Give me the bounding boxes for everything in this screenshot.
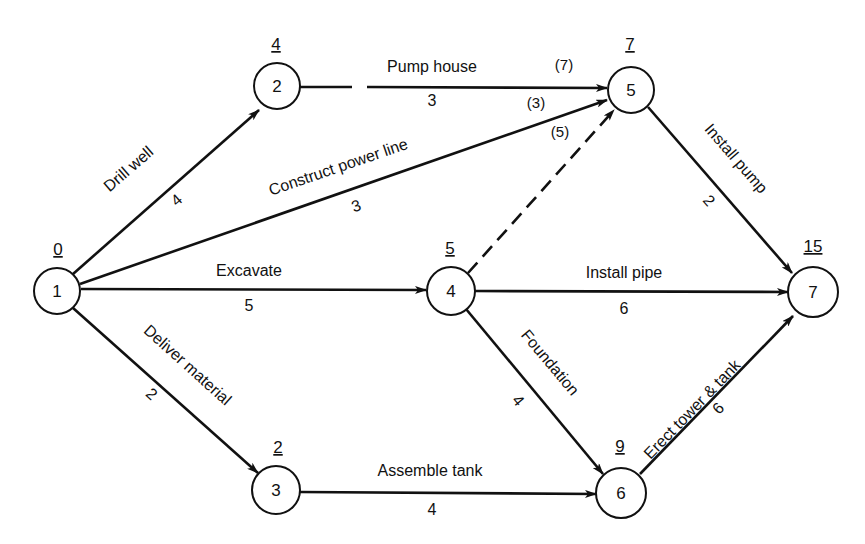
duration-label: 4 [428,501,437,518]
node-number: 2 [272,77,281,96]
edge-dummy-4-to-5 [468,110,614,273]
arrival-time-pump-house: (7) [555,56,573,73]
activity-label: Install pump [701,120,770,196]
edge-deliver-material: Deliver material 2 [73,308,258,473]
node-4: 4 5 [427,239,475,315]
earliest-time: 4 [271,35,280,54]
earliest-time: 9 [615,437,624,456]
edge-drill-well: Drill well 4 [73,110,259,274]
edge-excavate: Excavate 5 [81,262,426,314]
activity-label: Construct power line [266,135,410,199]
node-5: 5 7 [608,35,654,113]
activity-label: Excavate [216,262,282,279]
edge-install-pipe: Install pipe 6 [475,264,788,317]
node-number: 5 [626,81,635,100]
edge-erect-tower-and-tank: Erect tower & tank 6 [640,316,793,474]
duration-label: 3 [428,92,437,109]
node-6: 6 9 [596,437,646,518]
activity-network-diagram: Drill well 4 Pump house 3 Construct powe… [0,0,865,544]
duration-label: 4 [167,190,185,209]
activity-label: Erect tower & tank [641,356,745,463]
node-1: 1 0 [34,240,80,314]
node-number: 6 [616,484,625,503]
edge-assemble-tank: Assemble tank 4 [300,462,596,518]
node-number: 3 [271,481,280,500]
activity-label: Drill well [100,143,156,195]
earliest-time: 2 [273,438,282,457]
duration-label: 3 [349,196,363,215]
node-number: 1 [52,282,61,301]
duration-label: 2 [143,385,161,404]
node-number: 7 [808,283,817,302]
activity-label: Assemble tank [378,462,484,479]
earliest-time: 7 [625,35,634,54]
arrival-time-power-line: (3) [527,94,545,111]
earliest-time: 5 [445,239,454,258]
duration-label: 5 [245,297,254,314]
earliest-time: 15 [804,237,823,256]
edge-construct-power-line: Construct power line 3 [80,100,607,284]
duration-label: 6 [709,399,727,417]
node-7: 7 15 [788,237,838,317]
duration-label: 4 [509,392,528,410]
activity-label: Pump house [387,58,477,75]
earliest-time: 0 [53,240,62,259]
node-number: 4 [446,282,455,301]
node-3: 3 2 [252,438,300,514]
activity-label: Foundation [518,326,582,398]
arrival-time-dummy: (5) [551,123,569,140]
activity-label: Install pipe [586,264,663,281]
duration-label: 6 [620,300,629,317]
edge-foundation: Foundation 4 [466,309,603,474]
node-2: 2 4 [254,35,300,109]
duration-label: 2 [700,191,719,209]
edge-install-pump: Install pump 2 [648,107,792,273]
